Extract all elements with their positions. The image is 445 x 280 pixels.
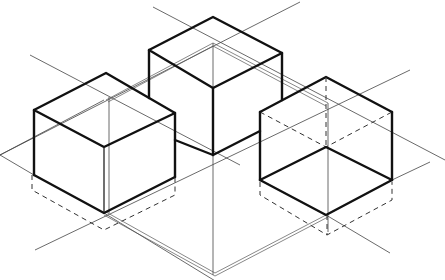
isometric-drawing: Isometric drawing of three cubes on an i…	[0, 0, 445, 280]
right-cube	[260, 77, 392, 235]
middle-cube	[149, 17, 282, 155]
construction-lines	[0, 2, 445, 280]
ground-plane	[104, 43, 328, 276]
left-cube	[32, 73, 175, 230]
